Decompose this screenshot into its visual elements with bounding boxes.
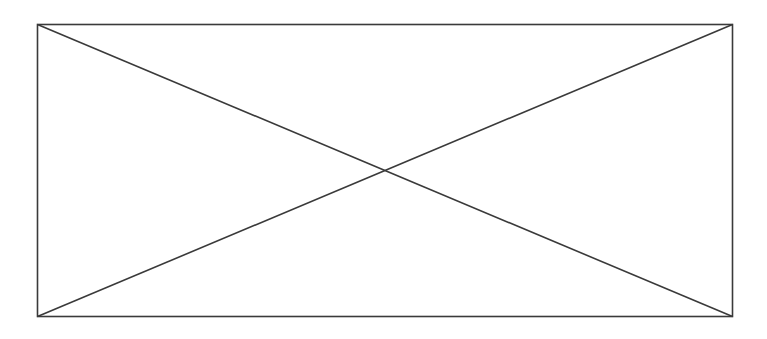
placeholder-diagram <box>0 0 767 339</box>
